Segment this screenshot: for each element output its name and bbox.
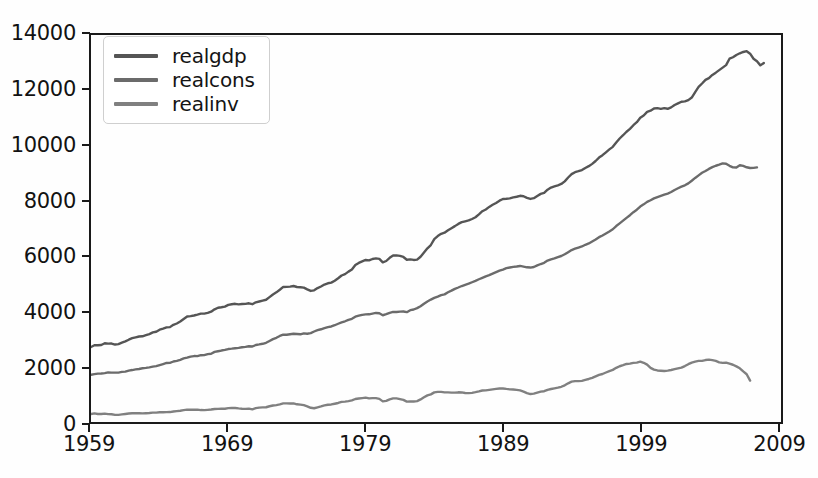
y-tick-label: 4000	[24, 300, 76, 324]
x-tick-label: 1969	[201, 432, 253, 456]
x-tick-mark	[364, 424, 366, 432]
x-tick-mark	[502, 424, 504, 432]
legend-label: realinv	[172, 94, 239, 114]
y-tick-mark	[82, 367, 90, 369]
x-tick-mark	[640, 424, 642, 432]
x-tick-mark	[88, 424, 90, 432]
y-tick-mark	[82, 144, 90, 146]
y-tick-mark	[82, 200, 90, 202]
x-tick-label: 1979	[339, 432, 391, 456]
line-realinv	[91, 360, 750, 415]
y-tick-label: 8000	[24, 189, 76, 213]
legend-item-realgdp[interactable]: realgdp	[114, 44, 255, 68]
y-tick-label: 12000	[11, 77, 76, 101]
legend-label: realgdp	[172, 46, 247, 66]
y-tick-label: 6000	[24, 244, 76, 268]
y-tick-mark	[82, 88, 90, 90]
legend-line-swatch-realinv	[114, 102, 158, 106]
y-tick-label: 2000	[24, 356, 76, 380]
x-tick-label: 1959	[63, 432, 115, 456]
legend-item-realcons[interactable]: realcons	[114, 68, 255, 92]
series-group-realcons	[91, 163, 757, 374]
y-tick-mark	[82, 32, 90, 34]
legend-line-swatch-realgdp	[114, 54, 158, 58]
x-tick-label: 1989	[477, 432, 529, 456]
x-tick-mark	[226, 424, 228, 432]
series-group-realinv	[91, 360, 750, 415]
y-tick-mark	[82, 311, 90, 313]
line-realcons	[91, 163, 757, 374]
y-tick-mark	[82, 255, 90, 257]
x-tick-label: 1999	[615, 432, 667, 456]
chart-legend: realgdp realcons realinv	[103, 36, 270, 124]
x-tick-label: 2009	[753, 432, 805, 456]
y-tick-label: 14000	[11, 21, 76, 45]
legend-line-swatch-realcons	[114, 78, 158, 82]
figure-canvas: 14000 12000 10000 8000 6000 4000 2000 0 …	[0, 0, 818, 478]
legend-label: realcons	[172, 70, 255, 90]
legend-item-realinv[interactable]: realinv	[114, 92, 255, 116]
y-tick-label: 10000	[11, 133, 76, 157]
x-tick-mark	[778, 424, 780, 432]
